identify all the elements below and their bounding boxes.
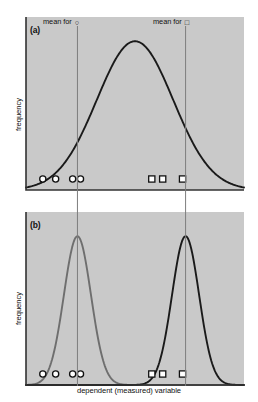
- panel-b: [26, 212, 244, 385]
- mean-for-square-text: mean for: [153, 17, 182, 26]
- observation-square: [160, 176, 166, 182]
- figure-container: (a) (b) mean for○ mean for□ frequency fr…: [0, 0, 258, 402]
- panel-a: [26, 17, 244, 190]
- observation-circle: [40, 176, 46, 182]
- observation-circle: [77, 176, 83, 182]
- mean-for-circle-label: mean for○: [43, 17, 79, 27]
- observation-square: [149, 176, 155, 182]
- observation-circle: [53, 176, 59, 182]
- y-axis-label-panel-a: frequency: [14, 98, 23, 131]
- observation-square: [179, 371, 185, 377]
- observation-circle: [70, 371, 76, 377]
- observation-circle: [40, 371, 46, 377]
- mean-for-square-label: mean for□: [153, 17, 189, 27]
- observation-square: [179, 176, 185, 182]
- circle-icon: ○: [75, 18, 79, 27]
- mean-for-circle-text: mean for: [43, 17, 72, 26]
- observation-square: [149, 371, 155, 377]
- observation-circle: [70, 176, 76, 182]
- distribution-chart: [0, 0, 258, 402]
- panel-b-label: (b): [30, 220, 41, 230]
- panel-a-background: [26, 17, 244, 190]
- observation-square: [160, 371, 166, 377]
- square-icon: □: [185, 18, 189, 27]
- observation-circle: [53, 371, 59, 377]
- panel-a-label: (a): [30, 25, 40, 35]
- x-axis-label: dependent (measured) variable: [0, 386, 258, 395]
- y-axis-label-panel-b: frequency: [14, 292, 23, 325]
- observation-circle: [77, 371, 83, 377]
